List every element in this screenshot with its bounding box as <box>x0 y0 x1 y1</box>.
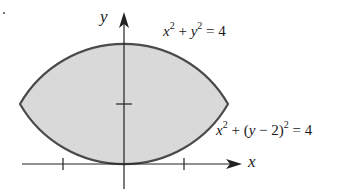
x-axis-label: x <box>248 152 256 172</box>
y-axis-label: y <box>100 7 108 27</box>
stray-dot <box>3 12 5 14</box>
equation-circle-2: x2 + (y − 2)2 = 4 <box>216 122 312 139</box>
equation-circle-1: x2 + y2 = 4 <box>163 23 226 40</box>
